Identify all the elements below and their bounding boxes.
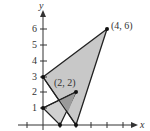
y-tick-label: 6 — [32, 23, 37, 34]
x-axis-arrow-icon — [131, 122, 138, 128]
coordinate-diagram: 1 2 3 4 5 6 x y (4, 6) (2, 2) — [0, 0, 150, 131]
x-axis-label: x — [139, 119, 145, 130]
y-tick-label: 5 — [32, 39, 37, 50]
point-label-4-6: (4, 6) — [111, 20, 133, 32]
y-tick-label: 3 — [32, 71, 37, 82]
y-axis-label: y — [38, 0, 44, 11]
y-tick-label: 1 — [32, 102, 37, 113]
y-tick-label: 2 — [32, 86, 37, 97]
point-label-2-2: (2, 2) — [54, 77, 76, 89]
y-tick-label: 4 — [32, 55, 37, 66]
y-axis-arrow-icon — [40, 10, 46, 17]
